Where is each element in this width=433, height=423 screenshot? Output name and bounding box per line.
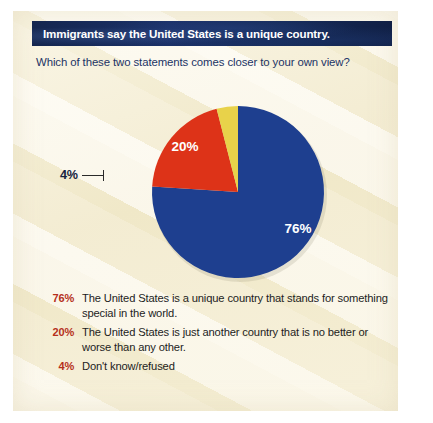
- pie-label-20: 20%: [171, 139, 198, 154]
- callout-leader-line: [82, 175, 104, 176]
- legend-percent: 76%: [40, 291, 74, 306]
- legend-label: Don't know/refused: [82, 359, 175, 374]
- legend-row: 20% The United States is just another co…: [40, 325, 400, 354]
- pie-callout-4: 4%: [60, 169, 104, 182]
- page-title: Immigrants say the United States is a un…: [32, 28, 330, 40]
- legend-percent: 20%: [40, 325, 74, 340]
- legend: 76% The United States is a unique countr…: [40, 291, 400, 379]
- pie-chart: 76% 20%: [110, 96, 370, 291]
- pie-label-76: 76%: [284, 221, 311, 236]
- question-subtitle: Which of these two statements comes clos…: [36, 56, 396, 68]
- content-layer: Immigrants say the United States is a un…: [0, 0, 433, 423]
- legend-row: 4% Don't know/refused: [40, 359, 400, 374]
- title-bar: Immigrants say the United States is a un…: [32, 21, 392, 46]
- legend-label: The United States is just another countr…: [82, 325, 392, 354]
- legend-label: The United States is a unique country th…: [82, 291, 392, 320]
- pie-chart-svg: 76% 20%: [110, 96, 370, 291]
- legend-row: 76% The United States is a unique countr…: [40, 291, 400, 320]
- legend-percent: 4%: [40, 359, 74, 374]
- pie-callout-4-label: 4%: [60, 169, 78, 182]
- poster-page: Immigrants say the United States is a un…: [0, 0, 433, 423]
